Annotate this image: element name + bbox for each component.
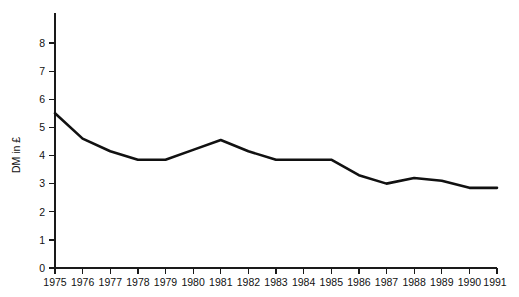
y-axis-title: DM in £	[10, 137, 22, 173]
line-chart-figure: DM in £ 0 1 2 3 4 5 6	[0, 0, 519, 297]
x-tick-label: 1985	[320, 276, 344, 288]
x-tick-label: 1982	[237, 276, 261, 288]
y-tick-label: 1	[39, 234, 45, 246]
x-tick-label: 1980	[181, 276, 205, 288]
x-tick-label: 1984	[292, 276, 316, 288]
chart-page: DM in £ 0 1 2 3 4 5 6	[0, 0, 519, 297]
chart-canvas: DM in £ 0 1 2 3 4 5 6	[0, 0, 519, 297]
y-tick-label: 6	[39, 93, 45, 105]
y-tick-label: 5	[39, 121, 45, 133]
x-tick-label: 1987	[375, 276, 399, 288]
y-tick-label: 0	[39, 262, 45, 274]
x-axis-ticks: 1975 1976 1977 1978 1979 1980 1981 1982 …	[43, 268, 507, 288]
x-tick-label: 1977	[99, 276, 123, 288]
x-tick-label: 1978	[126, 276, 150, 288]
y-tick-label: 7	[39, 65, 45, 77]
x-tick-label: 1979	[154, 276, 178, 288]
x-tick-label: 1975	[43, 276, 67, 288]
y-axis-ticks: 0 1 2 3 4 5 6 7 8	[39, 37, 55, 274]
y-tick-label: 4	[39, 149, 45, 161]
x-tick-label: 1986	[347, 276, 371, 288]
x-tick-label: 1983	[264, 276, 288, 288]
y-tick-label: 3	[39, 177, 45, 189]
y-tick-label: 8	[39, 37, 45, 49]
x-tick-label: 1988	[402, 276, 426, 288]
y-tick-label: 2	[39, 206, 45, 218]
x-tick-label: 1990	[458, 276, 482, 288]
x-tick-label: 1976	[71, 276, 95, 288]
x-tick-label: 1991	[483, 276, 507, 288]
data-series-line	[55, 113, 497, 188]
x-tick-label: 1981	[209, 276, 233, 288]
x-tick-label: 1989	[430, 276, 454, 288]
